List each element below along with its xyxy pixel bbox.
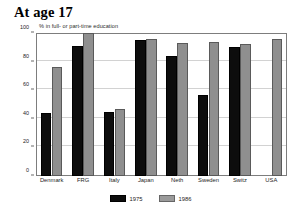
y-axis-tick-label: 20 bbox=[23, 138, 29, 144]
bar-frg-1975 bbox=[72, 46, 83, 176]
bar-neth-1975 bbox=[166, 56, 177, 176]
y-axis: 020406080100 bbox=[0, 33, 34, 176]
y-axis-tick-label: 0 bbox=[26, 167, 29, 173]
x-axis-label-frg: FRG bbox=[77, 177, 89, 183]
x-axis-label-denmark: Denmark bbox=[40, 177, 64, 183]
x-axis-label-italy: Italy bbox=[109, 177, 120, 183]
legend-item-1986[interactable]: 1986 bbox=[159, 195, 192, 202]
bar-frg-1986 bbox=[83, 33, 94, 176]
legend-item-1975[interactable]: 1975 bbox=[110, 195, 143, 202]
y-axis-tick-label: 100 bbox=[20, 24, 29, 30]
bars-layer bbox=[36, 33, 287, 176]
bar-switz-1975 bbox=[229, 47, 240, 176]
bar-sweden-1975 bbox=[198, 95, 209, 177]
y-axis-tick-mark bbox=[31, 32, 34, 33]
legend-label-1975: 1975 bbox=[130, 196, 143, 202]
x-axis: DenmarkFRGItalyJapanNethSwedenSwitzUSA bbox=[36, 177, 287, 189]
x-axis-label-switz: Switz bbox=[233, 177, 247, 183]
bar-japan-1975 bbox=[135, 40, 146, 176]
bar-sweden-1986 bbox=[209, 42, 220, 176]
bar-italy-1975 bbox=[104, 112, 115, 176]
y-axis-tick-label: 40 bbox=[23, 110, 29, 116]
x-axis-label-neth: Neth bbox=[171, 177, 183, 183]
x-axis-label-usa: USA bbox=[265, 177, 277, 183]
y-axis-tick-mark bbox=[31, 117, 34, 118]
bar-usa-1986 bbox=[272, 39, 283, 176]
bar-denmark-1986 bbox=[52, 67, 63, 176]
legend-swatch-1986 bbox=[159, 195, 175, 202]
y-axis-tick-mark bbox=[31, 89, 34, 90]
bar-italy-1986 bbox=[115, 109, 126, 176]
chart-title: At age 17 bbox=[14, 4, 73, 21]
y-axis-tick-label: 60 bbox=[23, 81, 29, 87]
bar-switz-1986 bbox=[240, 44, 251, 176]
chart-subtitle: % in full- or part-time education bbox=[39, 23, 118, 29]
x-axis-label-sweden: Sweden bbox=[198, 177, 219, 183]
chart-legend: 19751986 bbox=[0, 195, 301, 202]
bar-denmark-1975 bbox=[41, 113, 52, 176]
x-axis-label-japan: Japan bbox=[138, 177, 154, 183]
legend-swatch-1975 bbox=[110, 195, 126, 202]
legend-label-1986: 1986 bbox=[179, 196, 192, 202]
bar-japan-1986 bbox=[146, 39, 157, 176]
y-axis-tick-mark bbox=[31, 175, 34, 176]
y-axis-tick-mark bbox=[31, 146, 34, 147]
chart-figure: At age 17 % in full- or part-time educat… bbox=[0, 0, 301, 215]
y-axis-tick-mark bbox=[31, 60, 34, 61]
y-axis-tick-label: 80 bbox=[23, 53, 29, 59]
bar-neth-1986 bbox=[177, 43, 188, 176]
